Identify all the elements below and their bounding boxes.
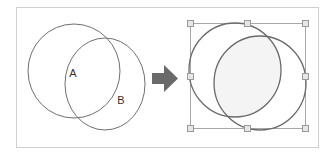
after-panel [188,21,309,132]
resize-handle-top-left[interactable] [188,21,194,27]
before-panel: A B [28,24,145,130]
resize-handle-bottom-left[interactable] [188,126,194,132]
resize-handle-bottom-right[interactable] [303,126,309,132]
venn-transform-diagram: A B [0,0,333,158]
resize-handle-middle-left[interactable] [188,74,194,80]
resize-handle-top-right[interactable] [303,21,309,27]
resize-handle-middle-right[interactable] [303,74,309,80]
label-b: B [117,94,124,106]
resize-handle-bottom-center[interactable] [245,126,251,132]
right-arrow-icon [152,65,178,92]
label-a: A [69,67,77,79]
circle-b [65,38,145,130]
resize-handle-top-center[interactable] [245,21,251,27]
